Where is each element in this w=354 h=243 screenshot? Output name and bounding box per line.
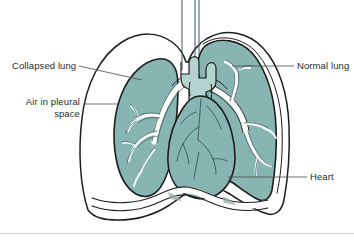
label-collapsed-lung: Collapsed lung [12,60,76,72]
bottom-divider-rule [0,233,354,234]
label-heart: Heart [310,171,334,183]
pneumothorax-diagram [0,0,354,243]
figure-page: Collapsed lung Air in pleural space Norm… [0,0,354,243]
label-air-in-pleural-space: Air in pleural space [8,96,80,119]
label-normal-lung: Normal lung [297,60,349,72]
